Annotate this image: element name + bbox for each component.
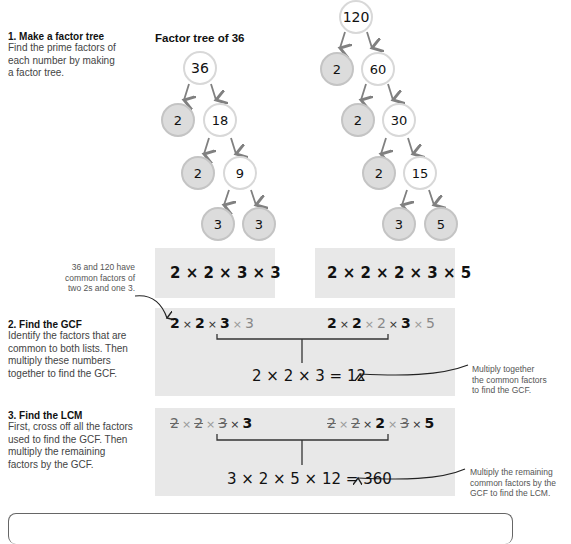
note-line: 36 and 120 have bbox=[40, 262, 135, 273]
crossed-factor: 2 bbox=[327, 415, 336, 431]
factor: 2 bbox=[195, 315, 205, 331]
factor: 3 bbox=[242, 415, 252, 431]
factor: 3 bbox=[245, 315, 254, 331]
bottom-callout-box bbox=[8, 513, 513, 544]
tree120-node-root: 120 bbox=[339, 0, 373, 34]
common-note-arrow bbox=[135, 296, 167, 318]
tree120-node-3: 3 bbox=[382, 207, 416, 241]
factor: 3 bbox=[220, 315, 230, 331]
note-lcm: Multiply the remaining common factors by… bbox=[470, 467, 570, 499]
tree120-node-60: 60 bbox=[361, 52, 395, 86]
factor-list-36: 2 × 2 × 3 × 3 bbox=[170, 264, 281, 282]
tree36-node-3a: 3 bbox=[201, 207, 235, 241]
tree120-node-2c: 2 bbox=[362, 156, 396, 190]
gcf-note-arrow bbox=[360, 365, 468, 375]
gcf-result: 2 × 2 × 3 = 12 bbox=[252, 367, 366, 385]
crossed-factor: 2 bbox=[170, 415, 179, 431]
factor: 5 bbox=[424, 415, 434, 431]
crossed-factor: 3 bbox=[218, 415, 227, 431]
tree120-node-2b: 2 bbox=[341, 103, 375, 137]
tree36-node-9: 9 bbox=[223, 156, 257, 190]
note-line: to find the GCF. bbox=[472, 385, 570, 396]
factor: 3 bbox=[401, 315, 411, 331]
lcm-list-36: 2×2×3×3 bbox=[170, 415, 252, 431]
tree36-node-2b: 2 bbox=[181, 156, 215, 190]
factor: 2 bbox=[377, 315, 386, 331]
gcf-list-36: 2×2×3×3 bbox=[170, 315, 254, 331]
factor: 2 bbox=[352, 315, 362, 331]
gcf-bracket bbox=[217, 334, 388, 363]
factor: 2 bbox=[375, 415, 385, 431]
note-line: two 2s and one 3. bbox=[40, 283, 135, 294]
note-common-factors: 36 and 120 have common factors of two 2s… bbox=[40, 262, 135, 294]
gcf-list-120: 2×2×2×3×5 bbox=[327, 315, 435, 331]
tree36-node-2a: 2 bbox=[161, 103, 195, 137]
note-line: common factors of bbox=[40, 273, 135, 284]
factor-list-120: 2 × 2 × 2 × 3 × 5 bbox=[327, 264, 471, 282]
crossed-factor: 2 bbox=[351, 415, 360, 431]
note-line: common factors by the bbox=[470, 478, 570, 489]
factor: 5 bbox=[426, 315, 435, 331]
note-line: Multiply the remaining bbox=[470, 467, 570, 478]
tree36-node-3b: 3 bbox=[242, 207, 276, 241]
lcm-result: 3 × 2 × 5 × 12 = 360 bbox=[227, 470, 392, 488]
tree36-node-18: 18 bbox=[203, 103, 237, 137]
note-line: the common factors bbox=[472, 375, 570, 386]
tree120-node-30: 30 bbox=[382, 103, 416, 137]
tree36-node-root: 36 bbox=[183, 51, 217, 85]
crossed-factor: 3 bbox=[400, 415, 409, 431]
note-gcf: Multiply together the common factors to … bbox=[472, 364, 570, 396]
note-line: GCF to find the LCM. bbox=[470, 488, 570, 499]
crossed-factor: 2 bbox=[194, 415, 203, 431]
note-line: Multiply together bbox=[472, 364, 570, 375]
lcm-bracket bbox=[217, 434, 388, 465]
tree120-node-2a: 2 bbox=[320, 52, 354, 86]
factor: 2 bbox=[170, 315, 180, 331]
factor: 2 bbox=[327, 315, 337, 331]
tree120-node-15: 15 bbox=[403, 156, 437, 190]
tree120-node-5: 5 bbox=[424, 207, 458, 241]
lcm-list-120: 2×2×2×3×5 bbox=[327, 415, 434, 431]
